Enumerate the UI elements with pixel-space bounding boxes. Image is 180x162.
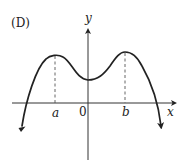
function-curve: [22, 52, 161, 126]
tick-label-b: b: [122, 106, 130, 118]
y-axis-label: y: [85, 12, 92, 24]
origin-label: 0: [79, 106, 87, 118]
function-graph-figure: (D) y x a 0 b: [0, 0, 180, 162]
tick-label-a: a: [52, 107, 59, 119]
panel-label: (D): [11, 17, 30, 29]
left-end-arrow-icon: [19, 127, 26, 133]
x-axis-label: x: [167, 106, 174, 118]
